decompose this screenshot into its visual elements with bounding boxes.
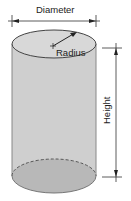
radius-label: Radius [56,47,86,58]
cylinder-body [12,44,96,176]
height-arrow-top-icon [114,48,118,55]
diameter-arrow-left-icon [12,19,19,23]
diameter-arrow-right-icon [89,19,96,23]
diameter-label: Diameter [36,4,75,15]
cylinder-diagram: Diameter Radius Height [0,0,131,201]
height-label: Height [101,96,112,124]
height-arrow-bottom-icon [114,170,118,177]
